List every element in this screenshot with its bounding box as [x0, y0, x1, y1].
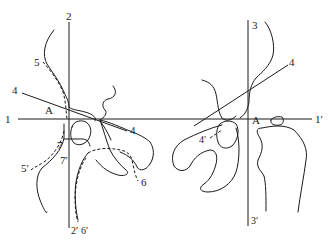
- label-point-a-right: A: [252, 114, 260, 126]
- label-curve6-prime: 6′: [81, 225, 88, 236]
- label-line4-left-end: 4: [130, 124, 136, 136]
- acetabular-roof-right: [202, 80, 236, 120]
- line-2: 2 2′: [66, 10, 78, 236]
- label-line4-left-start: 4: [12, 84, 18, 96]
- label-line3-top: 3: [252, 19, 258, 31]
- line-4-right: 4: [194, 56, 295, 126]
- label-line4-prime: 4′: [199, 134, 206, 145]
- label-line1-right: 1′: [315, 113, 323, 125]
- label-point-a-left: A: [45, 104, 53, 116]
- label-curve6: 6: [141, 176, 147, 188]
- label-line4-right-end: 4: [289, 56, 295, 68]
- lesser-trochanter-right: [271, 117, 283, 126]
- label-line3-bottom: 3′: [251, 215, 258, 226]
- curve-iliac-right: [240, 22, 274, 118]
- label-curve5-prime: 5′: [21, 162, 29, 174]
- hip-measurement-diagram: 1 1′ 2 2′ 3 3′ 4 4 4 A A 5 5′ 7 7′: [0, 0, 336, 243]
- femur-right: [257, 126, 306, 212]
- label-curve7: 7: [57, 139, 63, 151]
- line-4-left: 4 4: [12, 84, 136, 136]
- curve-lower-left-solid: [37, 124, 64, 213]
- label-curve7-prime: 7′: [60, 154, 68, 166]
- label-line1-left: 1: [5, 113, 11, 125]
- label-line2-top: 2: [66, 10, 72, 22]
- label-curve5: 5: [34, 56, 40, 68]
- line-4-prime-dashed: [210, 130, 222, 138]
- spine-wavy-left: [100, 86, 115, 120]
- curve-6-dashed: [88, 148, 138, 181]
- label-line2-bottom: 2′: [71, 225, 78, 236]
- femur-shaft-left-inner: [75, 153, 88, 220]
